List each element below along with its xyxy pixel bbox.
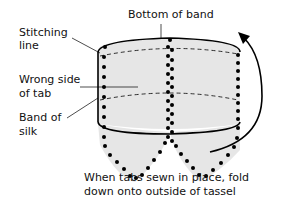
label-stitching-line: Stitching	[19, 27, 68, 39]
label-bottom-of-band: Bottom of band	[128, 9, 214, 21]
leader-stitching-line	[72, 38, 100, 53]
leader-band-of-silk	[67, 98, 98, 118]
label-stitching-line-2: line	[19, 40, 39, 52]
label-wrong-side-2: of tab	[19, 88, 51, 100]
label-wrong-side: Wrong side	[19, 74, 80, 86]
caption-line-1: When tabs sewn in place, fold	[84, 172, 249, 184]
label-band-of-silk-2: silk	[19, 126, 37, 138]
label-band-of-silk: Band of	[19, 112, 61, 124]
caption-line-2: down onto outside of tassel	[84, 186, 236, 198]
